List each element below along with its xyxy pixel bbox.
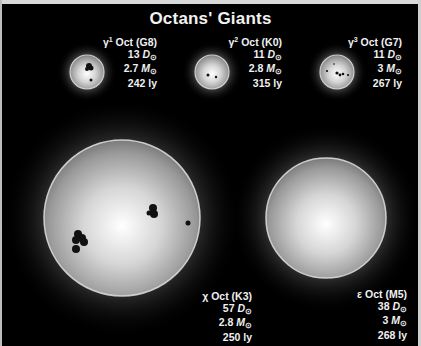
starspot: [147, 211, 152, 216]
distance-value: 315 ly: [253, 77, 282, 89]
mass-unit: M: [141, 62, 150, 74]
mass-unit: M: [266, 62, 275, 74]
sun-symbol: ⊙: [150, 53, 157, 62]
diagram-canvas: Octans' Giants γ1 Oct (G8)13 D⊙2.7 M⊙242…: [0, 0, 421, 346]
distance-value: 268 ly: [378, 329, 407, 341]
sun-symbol: ⊙: [400, 305, 407, 314]
diameter-value: 57: [223, 302, 238, 314]
distance-value: 267 ly: [373, 77, 402, 89]
sun-symbol: ⊙: [395, 67, 402, 76]
star-label-gamma1: γ1 Oct (G8)13 D⊙2.7 M⊙242 ly: [85, 37, 157, 89]
starspot: [80, 238, 88, 246]
mass-value: 2.8: [219, 316, 237, 328]
star-label-gamma3: γ3 Oct (G7)11 D⊙3 M⊙267 ly: [330, 37, 402, 89]
sun-symbol: ⊙: [400, 319, 407, 328]
star-name-spectral: Oct (K3): [208, 290, 252, 302]
distance-value: 250 ly: [223, 331, 252, 343]
mass-value: 3: [382, 314, 391, 326]
mass-value: 3: [377, 62, 386, 74]
diameter-value: 11: [253, 48, 267, 60]
starspot: [186, 221, 191, 226]
starspot: [72, 236, 80, 244]
starspot: [326, 70, 328, 72]
mass-unit: M: [386, 62, 395, 74]
star-name-spectral: Oct (K0): [238, 36, 282, 48]
star-epsilon: [231, 123, 421, 313]
sun-symbol: ⊙: [245, 307, 252, 316]
star-diameter: 11 D⊙: [210, 49, 282, 64]
star-diameter: 57 D⊙: [180, 303, 252, 318]
star-distance: 315 ly: [210, 78, 282, 90]
diameter-unit: D: [392, 300, 400, 312]
star-mass: 2.7 M⊙: [85, 63, 157, 78]
star-distance: 268 ly: [335, 330, 407, 342]
mass-value: 2.7: [124, 62, 142, 74]
mass-unit: M: [391, 314, 400, 326]
diameter-value: 38: [378, 300, 393, 312]
star-distance: 250 ly: [180, 332, 252, 344]
sun-symbol: ⊙: [275, 53, 282, 62]
distance-value: 242 ly: [128, 77, 157, 89]
star-mass: 3 M⊙: [335, 315, 407, 330]
star-name-spectral: Oct (G8): [113, 36, 157, 48]
sun-symbol: ⊙: [245, 321, 252, 330]
star-name-spectral: Oct (G7): [358, 36, 402, 48]
diameter-unit: D: [237, 302, 245, 314]
diameter-unit: D: [267, 48, 275, 60]
star-disk: [44, 140, 200, 296]
star-mass: 3 M⊙: [330, 63, 402, 78]
sun-symbol: ⊙: [150, 67, 157, 76]
sun-symbol: ⊙: [395, 53, 402, 62]
star-distance: 242 ly: [85, 78, 157, 90]
star-diameter: 11 D⊙: [330, 49, 402, 64]
star-mass: 2.8 M⊙: [210, 63, 282, 78]
star-name-spectral: Oct (M5): [362, 288, 407, 300]
starspot: [72, 245, 80, 253]
mass-unit: M: [236, 316, 245, 328]
diameter-value: 13: [128, 48, 143, 60]
sun-symbol: ⊙: [275, 67, 282, 76]
star-label-chi: χ Oct (K3)57 D⊙2.8 M⊙250 ly: [180, 291, 252, 343]
diameter-unit: D: [142, 48, 150, 60]
star-diameter: 38 D⊙: [335, 301, 407, 316]
star-mass: 2.8 M⊙: [180, 317, 252, 332]
diameter-value: 11: [373, 48, 387, 60]
mass-value: 2.8: [249, 62, 267, 74]
star-diameter: 13 D⊙: [85, 49, 157, 64]
star-label-epsilon: ε Oct (M5)38 D⊙3 M⊙268 ly: [335, 289, 407, 341]
star-label-gamma2: γ2 Oct (K0)11 D⊙2.8 M⊙315 ly: [210, 37, 282, 89]
star-distance: 267 ly: [330, 78, 402, 90]
diameter-unit: D: [387, 48, 395, 60]
